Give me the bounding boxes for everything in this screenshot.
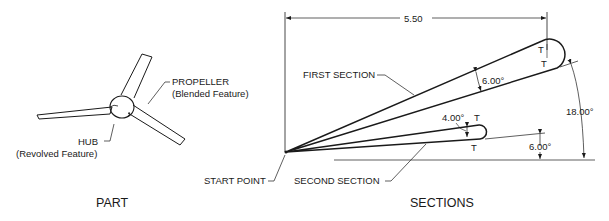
tangent-mark-3: T bbox=[474, 112, 480, 123]
sections-diagram: 5.50 T T 6.00° FIRST SECTION 18.00° T T … bbox=[204, 12, 595, 210]
start-point-marker bbox=[285, 151, 288, 154]
propeller-label: PROPELLER bbox=[172, 76, 229, 87]
first-section-leader bbox=[377, 75, 414, 95]
start-point-label: START POINT bbox=[204, 175, 266, 186]
hub-sublabel: (Revolved Feature) bbox=[16, 148, 97, 159]
second-section-offset-angle: 6.00° bbox=[529, 141, 551, 152]
second-section-angle: 4.00° bbox=[442, 112, 464, 123]
hub bbox=[110, 96, 134, 118]
diagram-canvas: PROPELLER (Blended Feature) HUB (Revolve… bbox=[0, 0, 609, 221]
first-section-angle: 6.00° bbox=[482, 75, 504, 86]
first-section-label: FIRST SECTION bbox=[303, 69, 375, 80]
propeller-blade-left bbox=[37, 107, 112, 119]
start-point-leader bbox=[268, 155, 285, 181]
tangent-mark-2: T bbox=[541, 58, 547, 69]
second-section-leader bbox=[385, 144, 426, 181]
tangent-mark-4: T bbox=[471, 142, 477, 153]
propeller-blade-right bbox=[128, 105, 185, 145]
propeller-leader bbox=[148, 82, 170, 104]
hub-label: HUB bbox=[78, 136, 98, 147]
length-dimension: 5.50 bbox=[404, 13, 423, 24]
second-section-label: SECOND SECTION bbox=[294, 175, 380, 186]
tangent-mark-1: T bbox=[538, 44, 544, 55]
part-title: PART bbox=[96, 196, 129, 210]
first-section-offset-angle: 18.00° bbox=[566, 106, 594, 117]
propeller-blade-upper bbox=[121, 54, 152, 98]
sections-title: SECTIONS bbox=[410, 196, 474, 210]
propeller-part: PROPELLER (Blended Feature) HUB (Revolve… bbox=[16, 54, 249, 210]
propeller-sublabel: (Blended Feature) bbox=[172, 88, 249, 99]
hub-leader bbox=[104, 124, 114, 141]
